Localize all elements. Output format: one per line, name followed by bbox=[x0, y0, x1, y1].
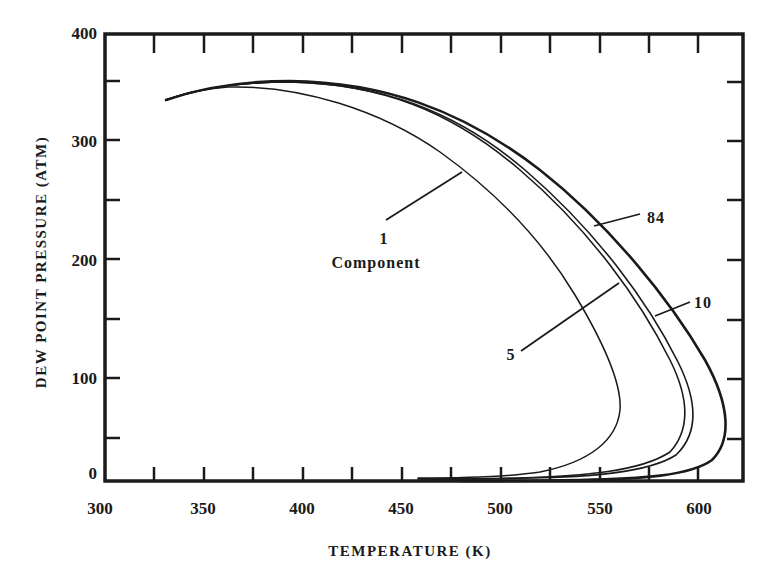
label-component: Component bbox=[331, 254, 420, 272]
x-axis-title: TEMPERATURE (K) bbox=[328, 543, 491, 560]
curves bbox=[166, 81, 726, 481]
y-tick-400: 400 bbox=[72, 24, 98, 43]
y-axis-ticks-left bbox=[105, 81, 120, 438]
curve-84 bbox=[166, 81, 726, 481]
plot-frame bbox=[105, 34, 743, 481]
y-axis-title: DEW POINT PRESSURE (ATM) bbox=[33, 136, 50, 388]
y-tick-300: 300 bbox=[72, 132, 98, 151]
x-tick-400: 400 bbox=[289, 499, 315, 518]
y-tick-100: 100 bbox=[72, 369, 98, 388]
y-tick-200: 200 bbox=[72, 251, 98, 270]
label-84: 84 bbox=[647, 209, 665, 226]
annotation-leaders bbox=[386, 172, 690, 351]
x-tick-600: 600 bbox=[686, 499, 712, 518]
leader-84 bbox=[594, 214, 640, 226]
curve-10 bbox=[166, 82, 693, 479]
label-1: 1 bbox=[380, 230, 389, 247]
y-tick-0: 0 bbox=[89, 464, 98, 483]
x-tick-350: 350 bbox=[190, 499, 216, 518]
label-5: 5 bbox=[507, 346, 516, 363]
leader-5 bbox=[521, 283, 619, 351]
x-tick-500: 500 bbox=[487, 499, 513, 518]
dew-point-chart: 300 350 400 450 500 550 600 0 100 200 30… bbox=[0, 0, 772, 582]
y-tick-labels: 0 100 200 300 400 bbox=[72, 24, 98, 483]
leader-1-component bbox=[386, 172, 462, 220]
label-10: 10 bbox=[694, 294, 712, 311]
x-tick-300: 300 bbox=[87, 499, 113, 518]
x-tick-450: 450 bbox=[388, 499, 414, 518]
leader-10 bbox=[655, 302, 690, 316]
curve-1-component bbox=[166, 87, 620, 478]
x-axis-ticks-top bbox=[154, 34, 698, 53]
y-axis-ticks-right bbox=[727, 82, 743, 439]
x-tick-550: 550 bbox=[587, 499, 613, 518]
x-tick-labels: 300 350 400 450 500 550 600 bbox=[87, 499, 712, 518]
